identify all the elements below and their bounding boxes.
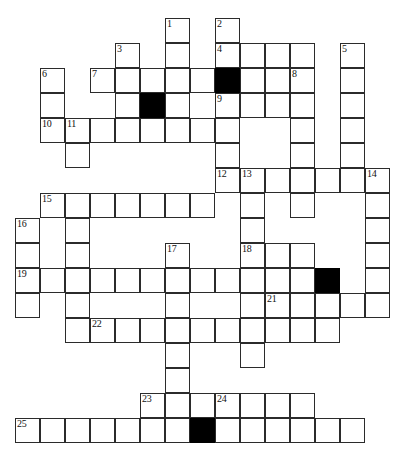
- crossword-cell[interactable]: [15, 293, 40, 318]
- crossword-cell[interactable]: [340, 168, 365, 193]
- crossword-cell[interactable]: [190, 68, 215, 93]
- crossword-cell[interactable]: [65, 418, 90, 443]
- crossword-cell[interactable]: [265, 318, 290, 343]
- crossword-cell[interactable]: 18: [240, 243, 265, 268]
- crossword-cell[interactable]: [65, 318, 90, 343]
- crossword-cell[interactable]: [165, 268, 190, 293]
- crossword-cell[interactable]: [165, 293, 190, 318]
- crossword-cell[interactable]: [240, 293, 265, 318]
- crossword-cell[interactable]: [190, 268, 215, 293]
- crossword-cell[interactable]: [265, 418, 290, 443]
- crossword-cell[interactable]: [365, 268, 390, 293]
- crossword-cell[interactable]: [240, 193, 265, 218]
- crossword-cell[interactable]: [240, 93, 265, 118]
- crossword-cell[interactable]: [165, 343, 190, 368]
- crossword-cell[interactable]: [215, 418, 240, 443]
- crossword-cell[interactable]: [165, 43, 190, 68]
- crossword-cell[interactable]: [190, 393, 215, 418]
- crossword-cell[interactable]: [115, 418, 140, 443]
- crossword-cell[interactable]: [290, 168, 315, 193]
- crossword-cell[interactable]: [290, 193, 315, 218]
- crossword-cell[interactable]: 19: [15, 268, 40, 293]
- crossword-cell[interactable]: [115, 68, 140, 93]
- crossword-cell[interactable]: 23: [140, 393, 165, 418]
- crossword-cell[interactable]: [265, 393, 290, 418]
- crossword-cell[interactable]: 8: [290, 68, 315, 93]
- crossword-cell[interactable]: [65, 293, 90, 318]
- crossword-cell[interactable]: 1: [165, 18, 190, 43]
- crossword-cell[interactable]: 7: [90, 68, 115, 93]
- crossword-cell[interactable]: [265, 168, 290, 193]
- crossword-cell[interactable]: [190, 318, 215, 343]
- crossword-cell[interactable]: [165, 368, 190, 393]
- crossword-cell[interactable]: [165, 193, 190, 218]
- crossword-cell[interactable]: [240, 418, 265, 443]
- crossword-cell[interactable]: [290, 143, 315, 168]
- crossword-cell[interactable]: [65, 218, 90, 243]
- crossword-cell[interactable]: 5: [340, 43, 365, 68]
- crossword-cell[interactable]: [40, 93, 65, 118]
- crossword-cell[interactable]: [340, 118, 365, 143]
- crossword-cell[interactable]: [165, 118, 190, 143]
- crossword-cell[interactable]: [140, 68, 165, 93]
- crossword-cell[interactable]: 24: [215, 393, 240, 418]
- crossword-cell[interactable]: [215, 268, 240, 293]
- crossword-cell[interactable]: 2: [215, 18, 240, 43]
- crossword-cell[interactable]: [265, 243, 290, 268]
- crossword-cell[interactable]: [265, 43, 290, 68]
- crossword-cell[interactable]: [240, 343, 265, 368]
- crossword-cell[interactable]: [290, 118, 315, 143]
- crossword-cell[interactable]: [140, 118, 165, 143]
- crossword-cell[interactable]: [40, 418, 65, 443]
- crossword-cell[interactable]: [165, 318, 190, 343]
- crossword-cell[interactable]: [290, 243, 315, 268]
- crossword-cell[interactable]: [290, 268, 315, 293]
- crossword-cell[interactable]: [340, 68, 365, 93]
- crossword-cell[interactable]: [165, 393, 190, 418]
- crossword-cell[interactable]: [40, 268, 65, 293]
- crossword-cell[interactable]: 10: [40, 118, 65, 143]
- crossword-cell[interactable]: [215, 143, 240, 168]
- crossword-cell[interactable]: [365, 293, 390, 318]
- crossword-cell[interactable]: [315, 293, 340, 318]
- crossword-cell[interactable]: [90, 193, 115, 218]
- crossword-cell[interactable]: 6: [40, 68, 65, 93]
- crossword-cell[interactable]: [115, 193, 140, 218]
- crossword-cell[interactable]: [190, 118, 215, 143]
- crossword-cell[interactable]: 15: [40, 193, 65, 218]
- crossword-cell[interactable]: [115, 118, 140, 143]
- crossword-cell[interactable]: [65, 268, 90, 293]
- crossword-cell[interactable]: [240, 68, 265, 93]
- crossword-cell[interactable]: 4: [215, 43, 240, 68]
- crossword-cell[interactable]: [115, 318, 140, 343]
- crossword-cell[interactable]: [140, 268, 165, 293]
- crossword-cell[interactable]: [15, 243, 40, 268]
- crossword-cell[interactable]: [290, 93, 315, 118]
- crossword-cell[interactable]: [365, 218, 390, 243]
- crossword-cell[interactable]: 22: [90, 318, 115, 343]
- crossword-cell[interactable]: [265, 93, 290, 118]
- crossword-cell[interactable]: [290, 393, 315, 418]
- crossword-cell[interactable]: [65, 193, 90, 218]
- crossword-cell[interactable]: [190, 193, 215, 218]
- crossword-cell[interactable]: [165, 68, 190, 93]
- crossword-cell[interactable]: 16: [15, 218, 40, 243]
- crossword-cell[interactable]: [115, 268, 140, 293]
- crossword-grid[interactable]: 123456789101112131415161718192122232425: [0, 0, 416, 459]
- crossword-cell[interactable]: 21: [265, 293, 290, 318]
- crossword-cell[interactable]: [90, 268, 115, 293]
- crossword-cell[interactable]: [140, 193, 165, 218]
- crossword-cell[interactable]: [240, 318, 265, 343]
- crossword-cell[interactable]: [115, 93, 140, 118]
- crossword-cell[interactable]: [65, 143, 90, 168]
- crossword-cell[interactable]: [240, 393, 265, 418]
- crossword-cell[interactable]: [240, 43, 265, 68]
- crossword-cell[interactable]: [340, 418, 365, 443]
- crossword-cell[interactable]: [315, 168, 340, 193]
- crossword-cell[interactable]: [265, 68, 290, 93]
- crossword-cell[interactable]: 12: [215, 168, 240, 193]
- crossword-cell[interactable]: [240, 218, 265, 243]
- crossword-cell[interactable]: [340, 293, 365, 318]
- crossword-cell[interactable]: [365, 193, 390, 218]
- crossword-cell[interactable]: [215, 318, 240, 343]
